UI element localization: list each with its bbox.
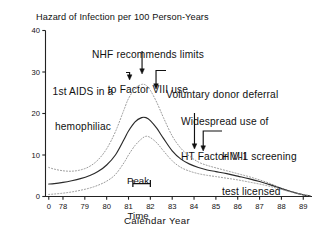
- x-tick-label: 78: [59, 202, 67, 211]
- x-tick-label: 84: [190, 202, 198, 211]
- x-tick-labels: 0787980818283848586878889: [47, 202, 308, 211]
- chart-figure: Hazard of Infection per 100 Person-Years…: [0, 0, 320, 237]
- axes: [42, 31, 312, 200]
- x-tick-label: 88: [277, 202, 285, 211]
- arrow-first-aids: [126, 73, 132, 81]
- data-curves: [49, 84, 310, 195]
- x-tick-label: 80: [102, 202, 110, 211]
- x-tick-label: 83: [168, 202, 176, 211]
- annotation-arrows: [126, 51, 222, 151]
- x-tick-label: 81: [124, 202, 132, 211]
- x-tick-label: 87: [255, 202, 263, 211]
- arrow-ht-factor: [192, 113, 197, 149]
- arrow-nhf: [140, 51, 145, 74]
- curve-confidence-band: [49, 84, 310, 195]
- y-tick-label: 20: [32, 109, 40, 118]
- y-tick-labels: 010203040: [32, 26, 40, 201]
- y-tick-label: 30: [32, 68, 40, 77]
- peak-time-bracket: [133, 180, 150, 187]
- x-tick-label: 79: [81, 202, 89, 211]
- x-tick-label: 0: [47, 202, 51, 211]
- y-tick-label: 40: [32, 26, 40, 35]
- x-tick-label: 89: [299, 202, 307, 211]
- y-tick-label: 0: [36, 192, 40, 201]
- x-tick-label: 86: [234, 202, 242, 211]
- plot-area: 010203040 0787980818283848586878889: [0, 0, 320, 237]
- y-tick-label: 10: [32, 151, 40, 160]
- arrow-voluntary-donor: [154, 71, 166, 90]
- x-tick-label: 82: [146, 202, 154, 211]
- x-tick-label: 85: [212, 202, 220, 211]
- arrow-hiv-screening: [201, 131, 222, 151]
- curve-confidence-band: [49, 136, 310, 195]
